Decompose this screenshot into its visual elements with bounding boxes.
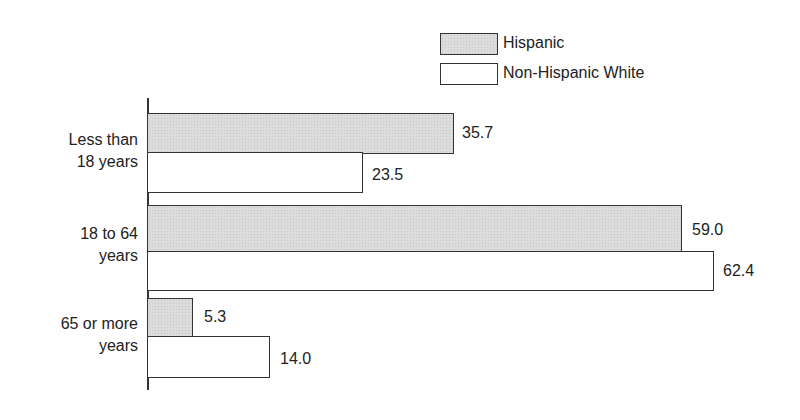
value-label-hispanic-18-to-64: 59.0 — [692, 221, 723, 239]
category-label-18-to-64: 18 to 64 years — [80, 223, 138, 267]
category-label-under-18: Less than 18 years — [69, 129, 138, 173]
legend-label-non-hispanic-white: Non-Hispanic White — [503, 64, 644, 82]
value-label-nhw-18-to-64: 62.4 — [723, 262, 754, 280]
value-label-hispanic-under-18: 35.7 — [462, 124, 493, 142]
value-label-nhw-65-plus: 14.0 — [280, 350, 311, 368]
bar-hispanic-65-plus — [148, 298, 193, 338]
bar-hispanic-under-18 — [148, 113, 454, 154]
value-label-nhw-under-18: 23.5 — [372, 166, 403, 184]
bar-nhw-under-18 — [148, 152, 363, 193]
bar-hispanic-18-to-64 — [148, 205, 682, 253]
legend-swatch-non-hispanic-white — [440, 63, 498, 85]
bar-nhw-18-to-64 — [148, 251, 714, 291]
value-label-hispanic-65-plus: 5.3 — [204, 308, 226, 326]
legend-label-hispanic: Hispanic — [503, 34, 564, 52]
legend-swatch-hispanic — [440, 33, 498, 55]
category-label-65-plus: 65 or more years — [61, 313, 138, 357]
bar-nhw-65-plus — [148, 336, 270, 378]
